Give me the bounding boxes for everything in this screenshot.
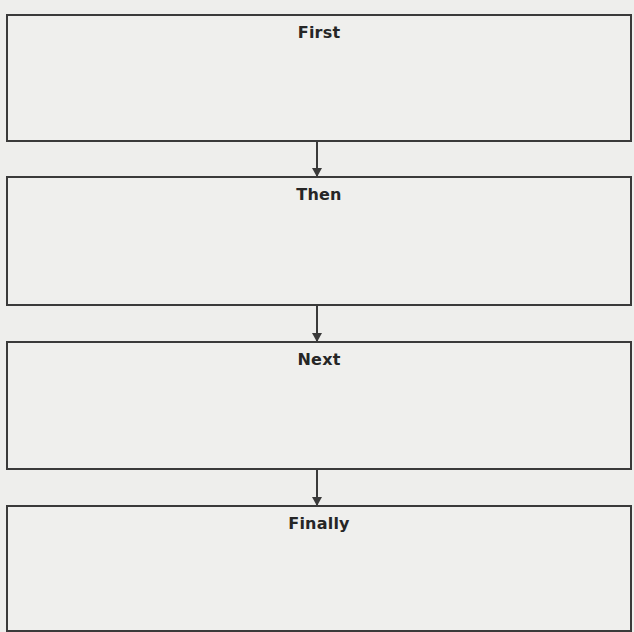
step-title: Then xyxy=(8,185,630,204)
step-box-next: Next xyxy=(6,341,632,470)
step-title: First xyxy=(8,23,630,42)
arrow-down-icon xyxy=(316,304,318,341)
arrow-down-icon xyxy=(316,140,318,176)
step-title: Next xyxy=(8,350,630,369)
step-box-then: Then xyxy=(6,176,632,306)
step-box-first: First xyxy=(6,14,632,142)
arrow-down-icon xyxy=(316,468,318,505)
step-box-finally: Finally xyxy=(6,505,632,632)
step-title: Finally xyxy=(8,514,630,533)
